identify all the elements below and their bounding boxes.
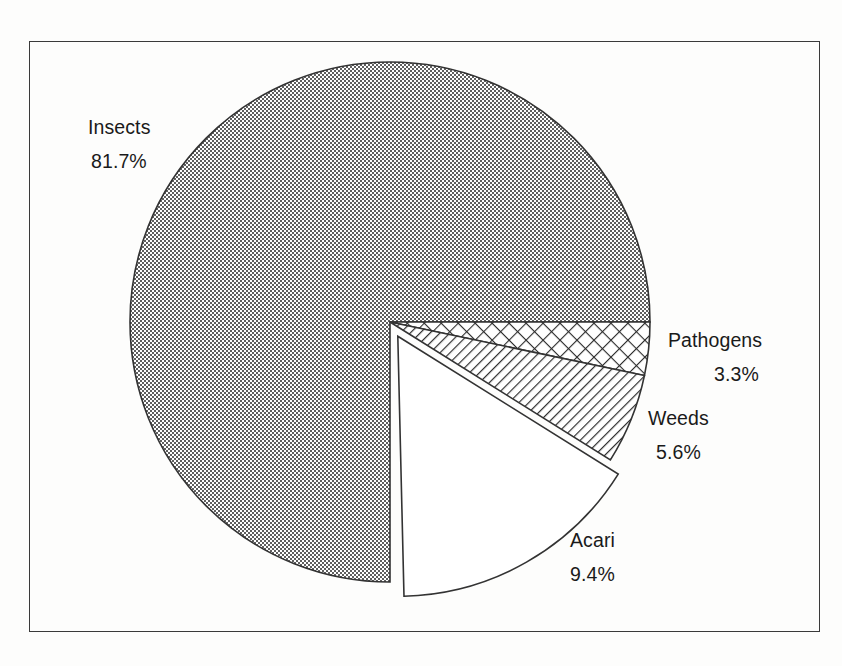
slice-label-insects-value: 81.7% xyxy=(91,151,150,171)
slice-label-weeds-name: Weeds xyxy=(648,408,709,428)
slice-label-insects: Insects 81.7% xyxy=(88,117,150,172)
slice-label-acari-name: Acari xyxy=(570,530,615,550)
slice-label-pathogens-name: Pathogens xyxy=(668,330,762,350)
slice-label-pathogens: Pathogens 3.3% xyxy=(668,330,762,385)
slice-label-acari: Acari 9.4% xyxy=(570,530,615,585)
slice-label-insects-name: Insects xyxy=(88,117,150,137)
pie-chart-figure: Insects 81.7% Pathogens 3.3% Weeds 5.6% … xyxy=(0,0,842,666)
slice-label-weeds-value: 5.6% xyxy=(656,442,709,462)
slice-label-pathogens-value: 3.3% xyxy=(714,364,762,384)
slice-label-weeds: Weeds 5.6% xyxy=(648,408,709,463)
slice-label-acari-value: 9.4% xyxy=(570,564,615,584)
